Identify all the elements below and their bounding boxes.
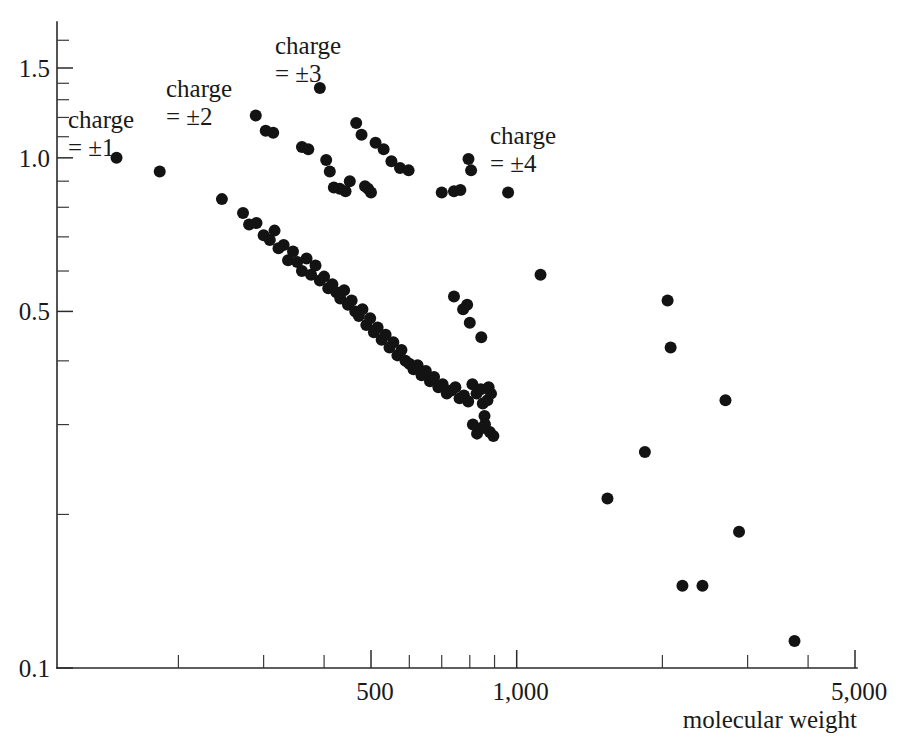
data-point bbox=[216, 193, 228, 205]
data-point bbox=[154, 166, 166, 178]
annotation-charge-3: charge= ±3 bbox=[275, 32, 341, 88]
x-tick-label-5000: 5,000 bbox=[831, 678, 887, 705]
data-point bbox=[601, 492, 613, 504]
data-point bbox=[356, 129, 368, 141]
data-point bbox=[364, 312, 376, 324]
annotation-line-2: = ±3 bbox=[275, 60, 341, 88]
data-point bbox=[676, 580, 688, 592]
data-point bbox=[535, 269, 547, 281]
data-point bbox=[789, 635, 801, 647]
y-tick-label-1-5: 1.5 bbox=[19, 55, 50, 82]
data-point bbox=[320, 154, 332, 166]
data-point bbox=[403, 164, 415, 176]
data-point bbox=[662, 295, 674, 307]
data-point bbox=[250, 110, 262, 122]
y-tick-label-0-1: 0.1 bbox=[19, 655, 50, 682]
annotation-charge-1: charge= ±1 bbox=[68, 106, 134, 162]
data-point bbox=[237, 207, 249, 219]
y-tick-label-1-0: 1.0 bbox=[19, 145, 50, 172]
x-axis-title: molecular weight bbox=[683, 706, 857, 733]
data-point bbox=[733, 526, 745, 538]
data-point bbox=[269, 225, 281, 237]
data-point bbox=[719, 394, 731, 406]
annotation-line-1: charge bbox=[166, 75, 232, 102]
data-point bbox=[665, 341, 677, 353]
data-point bbox=[465, 164, 477, 176]
annotation-charge-2: charge= ±2 bbox=[166, 75, 232, 131]
data-point bbox=[462, 153, 474, 165]
annotation-charge-4: charge= ±4 bbox=[490, 122, 556, 178]
annotation-line-1: charge bbox=[275, 32, 341, 59]
data-point bbox=[454, 184, 466, 196]
x-tick-label-500: 500 bbox=[356, 678, 394, 705]
y-tick-label-0-5: 0.5 bbox=[19, 298, 50, 325]
y-axis-tick-labels: 1.51.00.50.1 bbox=[19, 55, 50, 682]
data-point bbox=[464, 317, 476, 329]
data-point bbox=[346, 295, 358, 307]
annotation-line-2: = ±4 bbox=[490, 150, 556, 178]
data-point bbox=[448, 290, 460, 302]
data-point bbox=[483, 381, 495, 393]
data-point bbox=[267, 127, 279, 139]
data-point bbox=[344, 175, 356, 187]
data-point bbox=[378, 143, 390, 155]
series-4 bbox=[535, 269, 801, 647]
data-point bbox=[310, 260, 322, 272]
annotation-line-1: charge bbox=[490, 122, 556, 149]
data-point bbox=[287, 246, 299, 258]
scatter-plot: 1.51.00.50.1 5001,0005,000 molecular wei… bbox=[0, 0, 911, 751]
x-axis-ticks bbox=[178, 650, 855, 668]
data-point bbox=[324, 166, 336, 178]
data-points bbox=[111, 82, 801, 647]
chart-page: 1.51.00.50.1 5001,0005,000 molecular wei… bbox=[0, 0, 911, 751]
series-1 bbox=[216, 193, 499, 442]
data-point bbox=[302, 143, 314, 155]
data-point bbox=[696, 580, 708, 592]
annotation-line-2: = ±1 bbox=[68, 134, 134, 162]
data-point bbox=[365, 187, 377, 199]
x-tick-label-1000: 1,000 bbox=[493, 678, 549, 705]
annotation-line-1: charge bbox=[68, 106, 134, 133]
x-axis-tick-labels: 5001,0005,000 bbox=[356, 678, 887, 705]
data-point bbox=[338, 284, 350, 296]
data-point bbox=[350, 117, 362, 129]
series-3 bbox=[436, 153, 514, 343]
data-point bbox=[487, 430, 499, 442]
data-point bbox=[436, 187, 448, 199]
data-point bbox=[251, 217, 263, 229]
annotation-line-2: = ±2 bbox=[166, 103, 232, 131]
data-point bbox=[395, 344, 407, 356]
data-point bbox=[639, 446, 651, 458]
data-point bbox=[502, 187, 514, 199]
data-point bbox=[475, 331, 487, 343]
data-point bbox=[467, 419, 479, 431]
data-point bbox=[461, 299, 473, 311]
series-2 bbox=[250, 82, 415, 198]
